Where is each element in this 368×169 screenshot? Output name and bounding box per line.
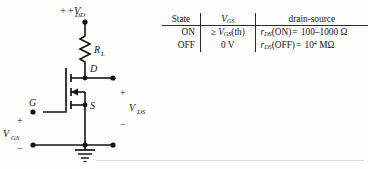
rds-on-unit: Ω bbox=[340, 27, 347, 37]
rds-on-equals: = bbox=[291, 27, 298, 37]
output-bottom-terminal-dot bbox=[110, 142, 115, 147]
vds-minus-sign: − bbox=[120, 119, 126, 130]
cell-ds-on: rDS(ON)= 100–1000 Ω bbox=[255, 25, 368, 38]
spec-table: State VGS drain-source ON ≥ VGS(th) rDS(… bbox=[162, 13, 368, 52]
drain-label: D bbox=[89, 63, 98, 74]
rds-off-exponent: 4 bbox=[314, 40, 317, 46]
source-label: S bbox=[90, 100, 95, 111]
input-bottom-terminal-dot bbox=[30, 142, 35, 147]
table-row: OFF 0 V rDS(OFF)= 104 MΩ bbox=[162, 39, 368, 52]
mosfet-switch-spec-table: State VGS drain-source ON ≥ VGS(th) rDS(… bbox=[162, 13, 368, 75]
rds-on-value: 100–1000 bbox=[301, 27, 338, 37]
vds-label: V bbox=[129, 102, 137, 113]
vgs-plus-sign: + bbox=[17, 115, 23, 126]
rds-on-condition: (ON) bbox=[272, 27, 292, 37]
gate-input-terminal-dot bbox=[30, 109, 35, 114]
rds-off-unit: MΩ bbox=[319, 40, 334, 50]
output-top-terminal-dot bbox=[110, 75, 115, 80]
rds-off-equals: = bbox=[295, 40, 302, 50]
resistor-label: R bbox=[93, 44, 100, 55]
header-state: State bbox=[162, 13, 200, 25]
rds-off-condition: (OFF) bbox=[272, 40, 295, 50]
header-vgs: VGS bbox=[200, 13, 255, 25]
ground-symbol bbox=[75, 145, 95, 162]
header-vgs-subscript: GS bbox=[227, 18, 235, 24]
vds-plus-sign: + bbox=[120, 87, 126, 98]
mosfet-gate-lead bbox=[43, 105, 66, 112]
vgs-minus-sign: − bbox=[17, 143, 23, 154]
vgs-label: V bbox=[3, 128, 11, 139]
gate-label: G bbox=[29, 97, 36, 108]
vgs-on-suffix: (th) bbox=[231, 27, 244, 37]
page-bottom-rule bbox=[96, 160, 364, 161]
cell-ds-off: rDS(OFF)= 104 MΩ bbox=[255, 39, 368, 52]
cell-vgs-on: ≥ VGS(th) bbox=[200, 25, 255, 38]
resistor-label-sub: L bbox=[100, 50, 105, 57]
vdd-label-plus: + bbox=[60, 5, 66, 16]
table-row: ON ≥ VGS(th) rDS(ON)= 100–1000 Ω bbox=[162, 25, 368, 38]
vds-label-sub: DS bbox=[136, 108, 146, 115]
cell-state-off: OFF bbox=[162, 39, 200, 52]
rds-off-subscript: DS bbox=[264, 44, 272, 50]
mosfet-substrate-arrow bbox=[71, 89, 78, 96]
cell-vgs-off: 0 V bbox=[200, 39, 255, 52]
vgs-label-sub: GS bbox=[11, 134, 20, 141]
circuit-svg: + +V DD R L D S G + V GS − + V DS − bbox=[0, 0, 160, 169]
vgs-on-prefix: ≥ bbox=[211, 27, 216, 37]
header-drain-source: drain-source bbox=[255, 13, 368, 25]
rds-off-value: 10 bbox=[305, 40, 314, 50]
vgs-off-value: 0 V bbox=[221, 40, 235, 50]
figure-page: + +V DD R L D S G + V GS − + V DS − bbox=[0, 0, 368, 169]
vdd-label-sub: DD bbox=[74, 11, 85, 19]
rds-on-subscript: DS bbox=[264, 31, 272, 37]
mosfet-circuit-diagram: + +V DD R L D S G + V GS − + V DS − bbox=[0, 0, 160, 169]
table-header-row: State VGS drain-source bbox=[162, 13, 368, 25]
load-resistor-symbol bbox=[80, 33, 90, 66]
cell-state-on: ON bbox=[162, 25, 200, 38]
